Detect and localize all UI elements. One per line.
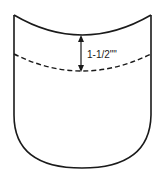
pocket-pattern-diagram: 1-1/2"" (0, 0, 164, 181)
top-edge-curve (14, 15, 151, 35)
measurement-label: 1-1/2"" (87, 49, 117, 60)
pocket-outline (14, 15, 151, 168)
measurement-arrow (78, 35, 84, 72)
